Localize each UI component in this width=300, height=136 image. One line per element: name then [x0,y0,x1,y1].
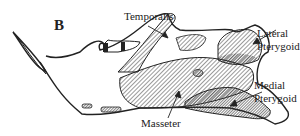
label-lateral-pterygoid: Pterygoid [257,40,300,52]
mandible-diagram: B Temporalis Lateral Pterygoid Medial Pt… [0,0,300,136]
label-medial: Medial [254,79,285,91]
label-temporalis: Temporalis [124,10,173,22]
label-masseter: Masseter [141,117,181,129]
panel-label: B [54,17,64,34]
label-medial-pterygoid: Pterygoid [254,92,297,104]
label-lateral: Lateral [257,27,288,39]
